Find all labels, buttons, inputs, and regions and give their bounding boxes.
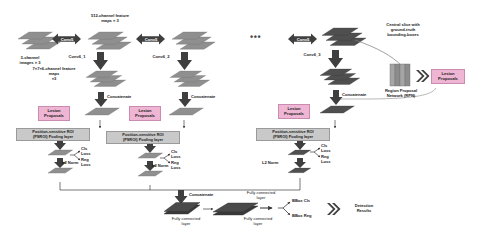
rpn-block <box>390 64 410 86</box>
concat-arrow-2 <box>179 92 192 107</box>
rpn-to-proposals-chevrons <box>416 70 430 82</box>
lesion-proposals-box-rpn: Lesion Proposals <box>431 69 465 84</box>
conv5-label-1: Conv5 <box>56 35 78 43</box>
central-slice-link <box>355 40 402 66</box>
cls-loss-label-3: Cls Loss <box>321 143 337 153</box>
l2-gather-bracket <box>60 178 300 190</box>
feature-stack-512-3 <box>322 28 366 45</box>
conv5-label-3: Conv5 <box>292 35 314 43</box>
reg-loss-label-1: Reg Loss <box>81 157 97 167</box>
reg-loss-label-2: Reg Loss <box>171 160 187 170</box>
conv6-3-label: Conv6_3 <box>297 52 327 57</box>
psroi-out-slab-2 <box>138 153 163 158</box>
reg-loss-label-3: Reg Loss <box>321 154 337 164</box>
rpn-label: Region Proposal Network (RPN) <box>370 88 432 98</box>
loss-fork-1 <box>70 151 80 160</box>
conv6-2-label: Conv6_2 <box>146 54 176 59</box>
l2norm-label-3: L2 Norm <box>262 160 288 165</box>
bbox-cls-label: BBox Cls <box>292 198 318 203</box>
concat-arrow-1 <box>95 92 108 107</box>
detection-chevrons <box>327 203 341 215</box>
concat-arrow-3 <box>330 90 343 105</box>
l2-out-slab-2 <box>138 171 163 176</box>
psroi-box-3: Position-sensitive ROI (PSROI) Pooling l… <box>256 128 330 141</box>
loss-fork-3 <box>310 148 320 157</box>
bottom-concat-arrow <box>175 190 188 204</box>
lesion-proposals-box-2: Lesion Proposals <box>129 106 161 121</box>
l2-out-slab-1 <box>48 168 73 173</box>
conv6-3-arrow <box>328 50 343 68</box>
lesion-proposals-box-3: Lesion Proposals <box>278 104 310 119</box>
bottom-block-1 <box>164 203 200 215</box>
pooled-stack-3 <box>320 69 360 84</box>
concat-slab-3 <box>320 106 354 113</box>
loss-fork-2 <box>160 154 170 163</box>
bottom-block-2 <box>213 203 258 215</box>
diagram-canvas: Lesion Proposals Lesion Proposals Lesion… <box>0 0 481 240</box>
conv6-1-label: Conv6_1 <box>62 54 92 59</box>
bbox-fork <box>278 202 290 215</box>
fc-label-left: Fully connected layer <box>160 216 212 226</box>
fc-label-mid-upper: Fully connected layer <box>235 190 287 200</box>
pooled-stack-1 <box>86 71 126 86</box>
psroi-out-slab-1 <box>48 150 73 155</box>
lesion-proposals-box-1: Lesion Proposals <box>38 106 70 121</box>
psroi-box-2: Position-sensitive ROI (PSROI) Pooling l… <box>106 131 180 144</box>
concat-label-1: Concatenate <box>107 94 145 99</box>
bottom-concat-label: Concatenate <box>189 192 229 197</box>
pooled-stack-2 <box>170 71 210 86</box>
feature-stack-512-1 <box>88 32 131 49</box>
psroi-box-1: Position-sensitive ROI (PSROI) Pooling l… <box>16 128 90 141</box>
ellipsis-between-stages: ••• <box>250 33 261 42</box>
feature-stack-512-2 <box>172 32 215 49</box>
central-slice-label: Central slice with ground-truth bounding… <box>372 22 434 37</box>
pooled-feature-maps-label: 7×7×6-channel feature maps ×3 <box>20 66 88 81</box>
concat-label-2: Concatenate <box>191 94 229 99</box>
feature-maps-512-label: 512-channel feature maps × 3 <box>76 13 144 23</box>
input-label: 3-channel images × 3 <box>6 55 54 65</box>
fc-label-mid-lower: Fully connected layer <box>232 216 284 226</box>
conv6-2-arrow <box>177 52 192 70</box>
cls-loss-label-1: Cls Loss <box>81 146 97 156</box>
conv5-label-2: Conv5 <box>140 35 162 43</box>
l2-out-slab-3 <box>288 168 311 173</box>
concat-slab-2 <box>169 108 203 115</box>
concat-slab-1 <box>85 108 119 115</box>
psroi-out-slab-3 <box>288 150 311 155</box>
detection-results-label: Detection Results <box>342 203 386 213</box>
cls-loss-label-2: Cls Loss <box>171 149 187 159</box>
l2-down-arrow-3 <box>294 158 306 168</box>
bbox-reg-label: BBox Reg <box>292 213 318 218</box>
conv6-1-arrow <box>93 52 108 70</box>
